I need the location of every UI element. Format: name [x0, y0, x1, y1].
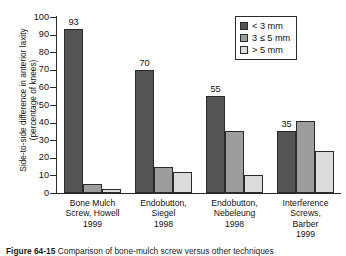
- y-axis-tick: [50, 70, 56, 71]
- bar: [64, 29, 83, 193]
- y-axis-tick: [50, 105, 56, 106]
- y-axis-tick: [50, 193, 56, 194]
- bar-group: 70: [135, 17, 192, 193]
- y-axis-tick: [50, 87, 56, 88]
- figure-caption: Figure 64-15 Comparison of bone-mulch sc…: [6, 247, 342, 256]
- y-axis-tick-label: 70: [6, 65, 49, 74]
- y-axis-tick-label: 90: [6, 30, 49, 39]
- bar: [154, 167, 173, 193]
- legend-item: 3 ≤ 5 mm: [240, 32, 290, 44]
- bar: [173, 172, 192, 193]
- legend-swatch-icon: [240, 22, 248, 30]
- y-axis-tick-label: 50: [6, 101, 49, 110]
- y-axis-tick-label: 0: [6, 189, 49, 198]
- plot-area: 93705535: [57, 17, 341, 193]
- bar-value-label: 70: [129, 59, 160, 68]
- y-axis-tick-label: 60: [6, 83, 49, 92]
- y-axis-tick-label: 30: [6, 136, 49, 145]
- bar: [244, 175, 263, 193]
- legend-label: 3 ≤ 5 mm: [252, 34, 290, 43]
- legend-label: < 3 mm: [252, 22, 283, 31]
- bar: [83, 184, 102, 193]
- y-axis-tick: [50, 35, 56, 36]
- bar: [296, 121, 315, 193]
- bar: [102, 189, 121, 193]
- figure-caption-label: Figure 64-15: [6, 247, 55, 256]
- y-axis-tick-label: 20: [6, 153, 49, 162]
- bar: [206, 96, 225, 193]
- x-axis-label-line: 1999: [261, 229, 346, 239]
- legend-label: > 5 mm: [252, 46, 283, 55]
- bar: [277, 131, 296, 193]
- legend-swatch-icon: [240, 46, 248, 54]
- x-axis-label: InterferenceScrews,Barber1999: [261, 198, 346, 240]
- legend-swatch-icon: [240, 34, 248, 42]
- x-axis-label-line: Screws,: [261, 208, 346, 218]
- y-axis-tick: [50, 158, 56, 159]
- y-axis-tick: [50, 52, 56, 53]
- bar: [225, 131, 244, 193]
- figure-caption-text: Comparison of bone-mulch screw versus ot…: [58, 247, 274, 256]
- x-axis-line: [56, 193, 341, 194]
- y-axis-tick-label: 40: [6, 118, 49, 127]
- bar-value-label: 55: [200, 85, 231, 94]
- bar: [315, 151, 334, 193]
- y-axis-tick: [50, 123, 56, 124]
- bar: [135, 70, 154, 193]
- legend-item: > 5 mm: [240, 44, 290, 56]
- bar-group: 93: [64, 17, 121, 193]
- y-axis-tick-label: 80: [6, 48, 49, 57]
- y-axis-tick: [50, 175, 56, 176]
- figure-container: Side-to-side difference in anterior laxi…: [0, 0, 346, 256]
- legend-item: < 3 mm: [240, 20, 290, 32]
- y-axis-tick-label: 10: [6, 171, 49, 180]
- x-axis-label-line: Interference: [261, 198, 346, 208]
- legend: < 3 mm 3 ≤ 5 mm > 5 mm: [235, 16, 297, 60]
- x-axis-label-line: Barber: [261, 219, 346, 229]
- y-axis-tick-label: 100: [6, 13, 49, 22]
- y-axis-tick: [50, 140, 56, 141]
- bar-value-label: 93: [58, 18, 89, 27]
- y-axis-tick: [50, 17, 56, 18]
